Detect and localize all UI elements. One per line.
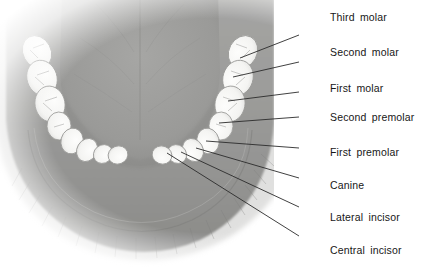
dental-arch-figure: Third molarSecond molarFirst molarSecond…	[0, 0, 422, 279]
leader-line-canine	[196, 148, 299, 178]
label-first-premolar[interactable]: First premolar	[330, 146, 399, 158]
label-lateral-incisor[interactable]: Lateral incisor	[330, 211, 400, 223]
leader-line-second-molar	[233, 62, 299, 77]
leader-line-first-premolar	[206, 141, 299, 148]
label-second-molar[interactable]: Second molar	[330, 46, 399, 58]
label-canine[interactable]: Canine	[330, 179, 364, 191]
label-second-premolar[interactable]: Second premolar	[330, 111, 414, 123]
leader-line-second-premolar	[219, 117, 299, 123]
leader-lines	[0, 0, 422, 279]
leader-line-third-molar	[240, 35, 299, 58]
label-central-incisor[interactable]: Central incisor	[330, 244, 402, 256]
leader-line-first-molar	[228, 92, 299, 101]
label-first-molar[interactable]: First molar	[330, 82, 383, 94]
label-third-molar[interactable]: Third molar	[330, 11, 387, 23]
leader-line-central-incisor	[167, 153, 299, 236]
